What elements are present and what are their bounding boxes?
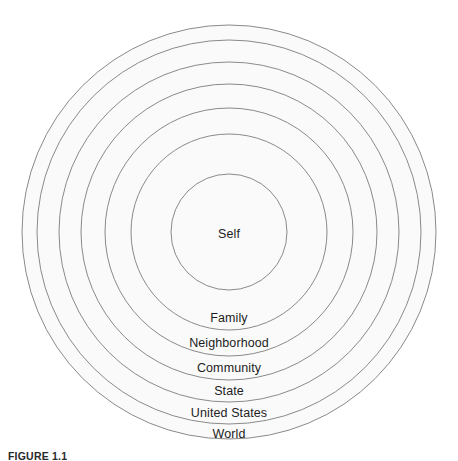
ring-label-united-states: United States bbox=[191, 407, 267, 420]
ring-label-family: Family bbox=[210, 312, 247, 325]
ring-label-neighborhood: Neighborhood bbox=[189, 337, 269, 350]
ring-label-self: Self bbox=[218, 228, 240, 241]
ring-label-world: World bbox=[213, 428, 246, 441]
figure-container: Self Family Neighborhood Community State… bbox=[0, 0, 458, 461]
ring-label-state: State bbox=[214, 385, 244, 398]
figure-caption: FIGURE 1.1 bbox=[8, 451, 448, 461]
ring-label-community: Community bbox=[197, 362, 261, 375]
